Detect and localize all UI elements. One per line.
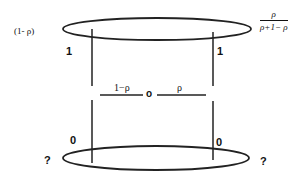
bottom-ring-left-label: ? (44, 154, 51, 166)
top-ring-right-fraction: ρ ρ+1− ρ (260, 9, 288, 32)
fraction-numerator: ρ (260, 9, 288, 21)
left-wire-bottom-value: 0 (70, 134, 76, 146)
fraction-denominator: ρ+1− ρ (260, 21, 288, 32)
middle-center-node: o (146, 88, 152, 99)
left-wire-top-value: 1 (66, 45, 72, 57)
right-wire-bottom-value: 0 (216, 136, 222, 148)
top-ring-left-label: (1- ρ) (14, 26, 34, 36)
bottom-ring (63, 146, 249, 170)
top-ring (63, 18, 251, 40)
right-wire-top-value: 1 (217, 45, 223, 57)
middle-right-label: ρ (177, 82, 182, 93)
middle-left-label: 1−ρ (114, 82, 130, 93)
bottom-ring-right-label: ? (260, 155, 267, 167)
